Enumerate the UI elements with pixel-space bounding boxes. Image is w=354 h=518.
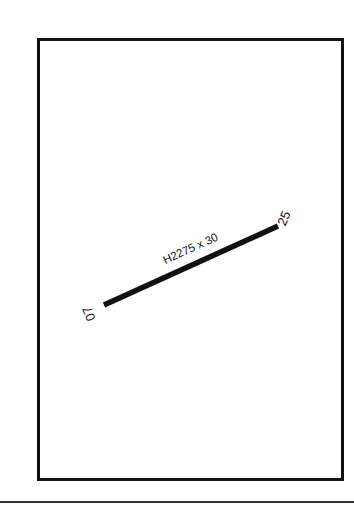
runway-end-label-07: 07 (79, 304, 98, 323)
page-divider (0, 501, 354, 503)
runway-dimension-label: H2275 x 30 (161, 231, 220, 266)
runway-line (104, 226, 278, 305)
runway-diagram: H2275 x 30 07 25 (0, 0, 354, 518)
